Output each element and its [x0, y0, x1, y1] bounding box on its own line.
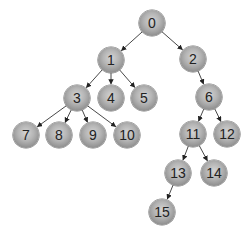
edge-0-1 [121, 32, 142, 51]
edge-1-3 [86, 70, 102, 88]
node-label: 10 [119, 127, 135, 143]
edge-3-8 [65, 110, 71, 123]
tree-node-9: 9 [80, 122, 106, 148]
tree-node-6: 6 [196, 84, 222, 110]
edge-11-13 [183, 146, 188, 160]
node-label: 8 [55, 127, 63, 143]
node-label: 13 [170, 165, 186, 181]
edges-layer [0, 0, 246, 235]
tree-diagram: 0123456789101112131415 [0, 0, 246, 235]
node-label: 7 [22, 127, 30, 143]
node-label: 6 [205, 89, 213, 105]
edge-13-15 [167, 185, 173, 199]
tree-node-13: 13 [165, 160, 191, 186]
tree-node-15: 15 [149, 199, 175, 225]
edge-11-14 [199, 145, 207, 160]
edge-6-12 [215, 109, 221, 122]
tree-node-0: 0 [139, 10, 165, 36]
tree-node-8: 8 [46, 122, 72, 148]
tree-node-1: 1 [98, 47, 124, 73]
edge-0-2 [162, 32, 183, 50]
node-label: 3 [73, 90, 81, 106]
tree-node-11: 11 [180, 121, 206, 147]
node-label: 5 [140, 90, 148, 106]
node-label: 15 [154, 204, 170, 220]
tree-node-4: 4 [98, 85, 124, 111]
tree-node-3: 3 [64, 85, 90, 111]
tree-node-2: 2 [180, 46, 206, 72]
node-label: 1 [107, 52, 115, 68]
tree-node-14: 14 [201, 160, 227, 186]
tree-node-10: 10 [114, 122, 140, 148]
node-label: 0 [148, 15, 156, 31]
edge-3-9 [82, 110, 87, 122]
tree-node-5: 5 [131, 85, 157, 111]
tree-node-12: 12 [214, 121, 240, 147]
node-label: 2 [189, 51, 197, 67]
tree-node-7: 7 [13, 122, 39, 148]
edge-6-11 [199, 109, 204, 121]
node-label: 9 [89, 127, 97, 143]
edge-1-5 [120, 70, 135, 88]
node-label: 11 [186, 126, 201, 142]
node-label: 14 [206, 165, 222, 181]
node-label: 4 [107, 90, 115, 106]
node-label: 12 [219, 126, 235, 142]
edge-2-6 [198, 71, 204, 84]
